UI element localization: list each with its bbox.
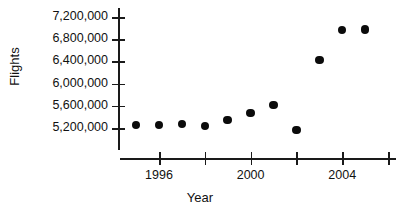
- y-axis-tick-label: 5,600,000: [22, 98, 108, 112]
- x-axis-tick-mark: [388, 152, 390, 165]
- x-axis-tick-mark: [342, 152, 344, 165]
- data-point: [361, 25, 370, 34]
- data-point: [338, 26, 347, 35]
- y-axis-tick-mark: [112, 39, 125, 41]
- y-axis-tick-mark: [112, 128, 125, 130]
- data-point: [201, 122, 210, 131]
- x-axis-tick-mark: [251, 152, 253, 165]
- x-axis-tick-label: 2004: [312, 168, 372, 182]
- data-point: [155, 121, 164, 130]
- x-axis-tick-mark: [159, 152, 161, 165]
- y-axis-tick-labels: 5,200,0005,600,0006,000,0006,400,0006,80…: [22, 0, 108, 212]
- y-axis-tick-mark: [112, 84, 125, 86]
- y-axis-tick-label: 5,200,000: [22, 120, 108, 134]
- y-axis-tick-label: 6,400,000: [22, 53, 108, 67]
- data-point: [315, 56, 324, 65]
- y-axis-tick-label: 6,800,000: [22, 31, 108, 45]
- data-point: [132, 121, 141, 130]
- data-point: [246, 109, 255, 118]
- x-axis-tick-label: 2000: [221, 168, 281, 182]
- x-axis-tick-mark: [205, 152, 207, 165]
- x-axis-tick-label: 1996: [129, 168, 189, 182]
- y-axis-label: Flights: [7, 32, 22, 102]
- y-axis-tick-mark: [112, 17, 125, 19]
- x-axis-tick-mark: [296, 152, 298, 165]
- y-axis-tick-label: 7,200,000: [22, 9, 108, 23]
- scatter-chart: Flights 5,200,0005,600,0006,000,0006,400…: [0, 0, 400, 212]
- data-point: [223, 116, 232, 125]
- y-axis-tick-label: 6,000,000: [22, 76, 108, 90]
- data-point: [178, 120, 187, 129]
- y-axis-tick-mark: [112, 61, 125, 63]
- data-point: [292, 126, 301, 135]
- data-point: [269, 101, 278, 110]
- x-axis-line: [120, 158, 396, 160]
- x-axis-label: Year: [0, 190, 400, 205]
- y-axis-tick-mark: [112, 106, 125, 108]
